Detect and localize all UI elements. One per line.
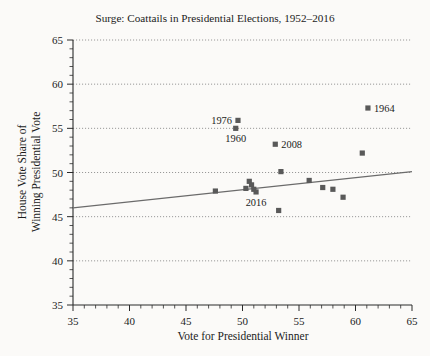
y-tick-label-35: 35 (52, 299, 64, 311)
x-tick-label-35: 35 (68, 315, 80, 327)
y-tick-label-55: 55 (52, 122, 64, 134)
data-point (273, 142, 278, 147)
x-tick-label-65: 65 (407, 315, 419, 327)
point-label-1960: 1960 (225, 133, 246, 144)
y-tick-label-65: 65 (52, 34, 64, 46)
point-label-1964: 1964 (374, 103, 396, 114)
point-label-2008: 2008 (281, 139, 302, 150)
x-axis-title: Vote for Presidential Winner (177, 330, 308, 342)
x-tick-label-50: 50 (237, 315, 249, 327)
x-tick-label-55: 55 (294, 315, 306, 327)
data-point (276, 208, 281, 213)
data-point (307, 178, 312, 183)
chart-title: Surge: Coattails in Presidential Electio… (95, 12, 334, 24)
data-point (365, 105, 370, 110)
chart-background (0, 0, 430, 356)
y-axis-title-line1: House Vote Share of (16, 125, 28, 220)
point-label-2016: 2016 (246, 197, 267, 208)
data-point (360, 150, 365, 155)
data-point (320, 185, 325, 190)
data-point (243, 186, 248, 191)
data-point (213, 188, 218, 193)
x-tick-label-45: 45 (181, 315, 193, 327)
data-point (235, 118, 240, 123)
scatter-plot: Surge: Coattails in Presidential Electio… (0, 0, 430, 356)
data-point (278, 169, 283, 174)
y-tick-label-60: 60 (52, 78, 64, 90)
y-tick-label-40: 40 (52, 255, 64, 267)
data-point (340, 195, 345, 200)
data-point (253, 189, 258, 194)
y-axis-title-line2: Winning Presidential Vote (30, 112, 43, 233)
x-tick-label-60: 60 (350, 315, 362, 327)
y-tick-label-45: 45 (52, 211, 64, 223)
point-label-1976: 1976 (211, 115, 232, 126)
y-tick-label-50: 50 (52, 167, 64, 179)
data-point (233, 126, 238, 131)
data-point (330, 187, 335, 192)
x-tick-label-40: 40 (124, 315, 136, 327)
chart-container: Surge: Coattails in Presidential Electio… (0, 0, 430, 356)
